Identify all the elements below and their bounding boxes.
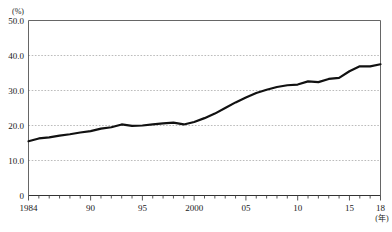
x-axis-unit-label: (年) — [375, 213, 389, 223]
chart-x-ticks — [29, 196, 381, 201]
y-tick-label: 10.0 — [8, 156, 24, 166]
y-axis-unit-label: (%) — [12, 7, 24, 16]
y-tick-label: 20.0 — [8, 121, 24, 131]
y-tick-label: 50.0 — [8, 16, 24, 26]
x-tick-label: 10 — [293, 203, 303, 213]
line-chart-canvas: 010.020.030.040.050.0 198490952000051015… — [0, 0, 392, 232]
x-tick-label: 15 — [345, 203, 355, 213]
y-tick-label: 30.0 — [8, 86, 24, 96]
x-tick-label: 95 — [138, 203, 148, 213]
chart-x-tick-labels: 19849095200005101518 — [20, 203, 386, 213]
chart-grid-lines — [29, 56, 381, 161]
x-tick-label: 1984 — [20, 203, 39, 213]
chart-axes — [29, 21, 381, 196]
x-tick-label: 2000 — [185, 203, 204, 213]
data-series-line — [29, 64, 381, 141]
x-tick-label: 05 — [241, 203, 251, 213]
chart-y-tick-labels: 010.020.030.040.050.0 — [8, 16, 24, 201]
y-tick-label: 40.0 — [8, 51, 24, 61]
y-tick-label: 0 — [20, 191, 25, 201]
x-tick-label: 18 — [376, 203, 386, 213]
x-tick-label: 90 — [86, 203, 96, 213]
chart-figure: 010.020.030.040.050.0 198490952000051015… — [0, 0, 392, 232]
